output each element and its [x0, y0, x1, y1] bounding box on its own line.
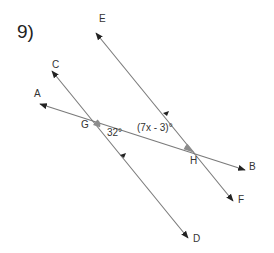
line-ab	[40, 104, 245, 170]
angle-label-g: 32°	[107, 127, 122, 138]
label-d: D	[193, 233, 200, 244]
line-cd	[52, 71, 188, 238]
label-g: G	[81, 119, 89, 130]
label-c: C	[52, 59, 59, 70]
label-a: A	[34, 88, 41, 99]
geometry-diagram: 9) E C A G H B F D 32° (7x - 3)°	[0, 0, 274, 253]
label-h: H	[190, 155, 197, 166]
label-f: F	[238, 194, 244, 205]
problem-number: 9)	[17, 21, 34, 42]
label-e: E	[99, 13, 106, 24]
angle-label-h: (7x - 3)°	[137, 122, 173, 133]
parallel-mark-ef	[163, 111, 169, 116]
label-b: B	[249, 161, 256, 172]
parallel-mark-cd	[120, 153, 126, 158]
line-ef	[96, 33, 233, 201]
